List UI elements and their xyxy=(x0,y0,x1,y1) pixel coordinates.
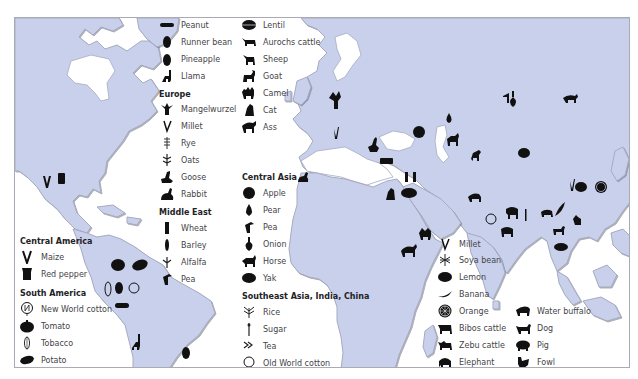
legend-label: Aurochs cattle xyxy=(263,38,320,47)
legend-label: Maize xyxy=(41,253,64,262)
tomato-icon xyxy=(111,259,125,271)
legend-label: Peanut xyxy=(181,21,209,30)
legend-label: Rice xyxy=(263,308,280,317)
zebu-cattle-icon xyxy=(437,338,453,352)
legend-heading-central-america: Central America xyxy=(20,237,92,246)
legend-label: Potato xyxy=(41,356,67,365)
pea-icon xyxy=(159,272,175,286)
apple-icon xyxy=(241,186,257,200)
legend-heading-europe: Europe xyxy=(159,90,191,99)
legend-label: Rye xyxy=(181,139,196,148)
sugar-icon xyxy=(525,209,527,221)
legend-label: Runner bean xyxy=(181,38,232,47)
legend-label: Fowl xyxy=(537,358,555,367)
dog-icon xyxy=(515,321,531,335)
legend-label: Sheep xyxy=(263,55,288,64)
legend-label: Llama xyxy=(181,72,205,81)
pig-icon xyxy=(515,338,531,352)
horse-icon xyxy=(241,254,257,268)
legend-label: Camel xyxy=(263,89,288,98)
north-america-landmass xyxy=(15,18,161,233)
maize-icon xyxy=(19,250,35,264)
old-world-cotton-icon xyxy=(241,356,257,368)
millet-icon xyxy=(159,119,175,133)
pineapple-icon xyxy=(159,52,175,66)
goat-icon xyxy=(241,69,257,83)
legend-label: Lemon xyxy=(459,273,486,282)
pea-icon xyxy=(241,220,257,234)
lemon-icon xyxy=(575,182,587,192)
legend-label: Barley xyxy=(181,241,207,250)
apple-icon xyxy=(413,126,425,138)
pig-icon xyxy=(554,243,568,251)
oats-icon xyxy=(159,153,175,167)
legend-heading-southeast-asia: Southeast Asia, India, China xyxy=(242,292,369,301)
legend-label: Bibos cattle xyxy=(459,324,506,333)
legend-label: Cat xyxy=(263,106,277,115)
legend-label: Elephant xyxy=(459,358,494,367)
millet-icon xyxy=(437,237,453,251)
fowl-icon xyxy=(515,355,531,368)
legend-heading-south-america: South America xyxy=(20,289,86,298)
cat-icon xyxy=(241,103,257,117)
legend-label: Pea xyxy=(181,275,195,284)
legend-label: Oats xyxy=(181,156,200,165)
runner-bean-icon xyxy=(159,35,175,49)
tobacco-icon xyxy=(19,336,35,350)
legend-label: Pig xyxy=(537,341,549,350)
legend-label: Millet xyxy=(181,122,203,131)
legend-label: Goose xyxy=(181,173,206,182)
red-pepper-icon xyxy=(58,173,65,184)
legend-label: Wheat xyxy=(181,224,207,233)
legend-label: New World cotton xyxy=(41,305,112,314)
peanut-icon xyxy=(159,18,175,32)
legend-label: Horse xyxy=(263,257,286,266)
legend-label: Old World cotton xyxy=(263,359,330,368)
barley-icon xyxy=(413,172,416,182)
sheep-icon xyxy=(241,52,257,66)
potato-icon xyxy=(19,353,35,367)
aurochs-cattle-icon xyxy=(380,158,393,164)
legend-label: Dog xyxy=(537,324,553,333)
yak-icon xyxy=(241,271,257,285)
sugar-icon xyxy=(241,322,257,336)
alfalfa-icon xyxy=(159,255,175,269)
legend-label: Yak xyxy=(263,274,276,283)
wheat-icon xyxy=(159,221,175,235)
camel-icon xyxy=(241,86,257,100)
lemon-icon xyxy=(437,270,453,284)
rabbit-icon xyxy=(159,187,175,201)
goose-icon xyxy=(159,170,175,184)
legend-label: Lentil xyxy=(263,21,285,30)
legend-label: Tea xyxy=(263,342,276,351)
legend-heading-middle-east: Middle East xyxy=(159,208,212,217)
legend-heading-central-asia: Central Asia xyxy=(242,173,297,182)
legend-label: Tobacco xyxy=(41,339,73,348)
soya-bean-icon xyxy=(437,253,453,267)
new-world-cotton-icon xyxy=(19,302,35,316)
pear-icon xyxy=(241,203,257,217)
legend-label: Red pepper xyxy=(41,270,87,279)
barley-icon xyxy=(159,238,175,252)
lentil-icon xyxy=(401,188,417,198)
pineapple-icon xyxy=(182,347,190,359)
legend-label: Banana xyxy=(459,290,489,299)
runner-bean-icon xyxy=(115,282,123,294)
legend-label: Pear xyxy=(263,206,281,215)
peanut-icon xyxy=(115,303,129,308)
legend-label: Pineapple xyxy=(181,55,220,64)
legend-label: Zebu cattle xyxy=(459,341,505,350)
legend-label: Sugar xyxy=(263,325,286,334)
banana-icon xyxy=(437,287,453,301)
yak-icon xyxy=(518,148,530,158)
sri-lanka xyxy=(493,301,499,309)
rye-icon xyxy=(159,136,175,150)
onion-icon xyxy=(241,237,257,251)
legend-label: Onion xyxy=(263,240,287,249)
orange-icon xyxy=(437,304,453,318)
legend-label: Orange xyxy=(459,307,489,316)
tea-icon xyxy=(241,339,257,353)
caribbean-islands xyxy=(97,205,141,225)
legend-label: Alfalfa xyxy=(181,258,206,267)
legend-label: Tomato xyxy=(41,322,70,331)
